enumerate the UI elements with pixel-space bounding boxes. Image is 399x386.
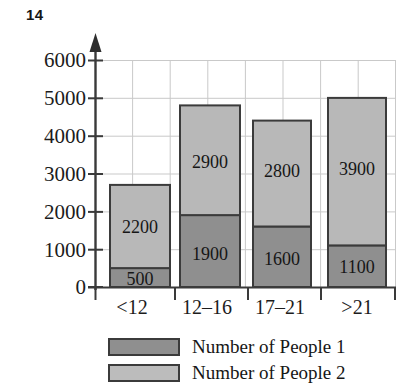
y-tick-label-6000: 6000 [10,50,86,71]
x-label-cat2: 17–21 [240,295,320,319]
bar-value-cat2-series2: 2800 [252,162,312,180]
y-axis-labels: 6000 5000 4000 3000 2000 1000 0 [6,0,86,300]
up-arrow-icon [90,33,102,52]
y-tick-label-1000: 1000 [10,240,86,261]
dark-gray-swatch-icon [108,338,180,356]
y-tick-label-3000: 3000 [10,164,86,185]
bar-value-cat0-series1: 500 [110,270,170,288]
legend-label-series2: Number of People 2 [192,362,346,384]
bar-value-cat0-series2: 2200 [108,218,172,236]
legend-item-series1[interactable]: Number of People 1 [108,335,399,359]
chart-page: 14 [0,0,399,386]
bar-value-cat3-series2: 3900 [327,160,387,178]
x-label-cat0: <12 [88,295,176,319]
y-tick-label-4000: 4000 [10,126,86,147]
x-axis-labels: <12 12–16 17–21 >21 [88,295,399,327]
bar-value-cat3-series1: 1100 [327,258,387,276]
x-label-cat3: >21 [316,295,398,319]
y-axis-line [90,33,102,290]
x-label-cat1: 12–16 [166,295,248,319]
light-gray-swatch-icon [108,364,180,382]
y-tick-label-5000: 5000 [10,88,86,109]
y-tick-label-2000: 2000 [10,202,86,223]
y-tick-label-0: 0 [10,277,86,298]
chart-legend: Number of People 1 Number of People 2 [108,335,399,386]
bar-value-cat2-series1: 1600 [252,250,312,268]
legend-item-series2[interactable]: Number of People 2 [108,361,399,385]
legend-label-series1: Number of People 1 [192,336,346,358]
bar-chart: 6000 5000 4000 3000 2000 1000 0 500 2200… [0,0,399,300]
bar-value-cat1-series2: 2900 [180,153,240,171]
bar-value-cat1-series1: 1900 [180,245,240,263]
